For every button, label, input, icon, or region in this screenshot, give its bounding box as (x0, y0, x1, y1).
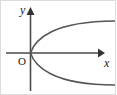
x-axis-label: x (104, 57, 109, 69)
origin-label: O (18, 56, 26, 67)
parabola-figure: y x O (0, 0, 116, 95)
y-axis-label: y (20, 4, 25, 16)
parabola-upper-branch (31, 21, 117, 53)
y-axis-arrowhead (27, 7, 35, 15)
coordinate-plane-svg (1, 1, 116, 95)
